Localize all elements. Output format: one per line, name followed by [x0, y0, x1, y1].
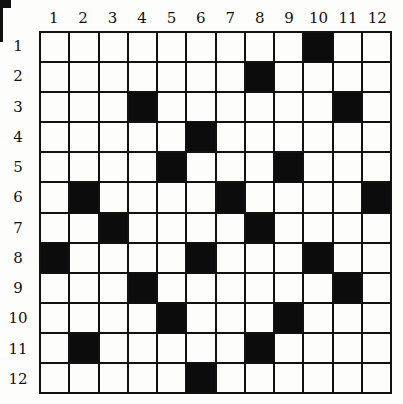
white-cell[interactable] [41, 364, 68, 392]
white-cell[interactable] [41, 63, 68, 91]
white-cell[interactable] [129, 183, 156, 211]
white-cell[interactable] [217, 244, 244, 272]
white-cell[interactable] [363, 274, 390, 302]
white-cell[interactable] [187, 214, 214, 242]
white-cell[interactable] [304, 304, 331, 332]
white-cell[interactable] [158, 33, 185, 61]
white-cell[interactable] [334, 334, 361, 362]
white-cell[interactable] [158, 63, 185, 91]
white-cell[interactable] [187, 33, 214, 61]
white-cell[interactable] [187, 334, 214, 362]
white-cell[interactable] [217, 334, 244, 362]
white-cell[interactable] [129, 153, 156, 181]
white-cell[interactable] [334, 183, 361, 211]
white-cell[interactable] [70, 33, 97, 61]
white-cell[interactable] [217, 153, 244, 181]
white-cell[interactable] [363, 364, 390, 392]
white-cell[interactable] [70, 63, 97, 91]
white-cell[interactable] [70, 153, 97, 181]
white-cell[interactable] [217, 93, 244, 121]
white-cell[interactable] [363, 304, 390, 332]
white-cell[interactable] [41, 33, 68, 61]
white-cell[interactable] [129, 63, 156, 91]
white-cell[interactable] [334, 214, 361, 242]
white-cell[interactable] [100, 304, 127, 332]
white-cell[interactable] [187, 93, 214, 121]
white-cell[interactable] [304, 123, 331, 151]
white-cell[interactable] [41, 334, 68, 362]
white-cell[interactable] [158, 214, 185, 242]
white-cell[interactable] [304, 183, 331, 211]
white-cell[interactable] [363, 63, 390, 91]
white-cell[interactable] [334, 63, 361, 91]
white-cell[interactable] [334, 304, 361, 332]
white-cell[interactable] [246, 304, 273, 332]
white-cell[interactable] [246, 33, 273, 61]
white-cell[interactable] [363, 33, 390, 61]
white-cell[interactable] [304, 153, 331, 181]
white-cell[interactable] [187, 274, 214, 302]
white-cell[interactable] [129, 214, 156, 242]
white-cell[interactable] [246, 93, 273, 121]
white-cell[interactable] [100, 334, 127, 362]
white-cell[interactable] [129, 123, 156, 151]
white-cell[interactable] [334, 123, 361, 151]
white-cell[interactable] [304, 364, 331, 392]
white-cell[interactable] [158, 364, 185, 392]
white-cell[interactable] [246, 123, 273, 151]
white-cell[interactable] [275, 183, 302, 211]
white-cell[interactable] [129, 304, 156, 332]
white-cell[interactable] [363, 244, 390, 272]
white-cell[interactable] [275, 123, 302, 151]
white-cell[interactable] [275, 93, 302, 121]
white-cell[interactable] [187, 304, 214, 332]
white-cell[interactable] [158, 93, 185, 121]
white-cell[interactable] [334, 244, 361, 272]
white-cell[interactable] [304, 334, 331, 362]
white-cell[interactable] [275, 364, 302, 392]
white-cell[interactable] [334, 364, 361, 392]
white-cell[interactable] [41, 93, 68, 121]
white-cell[interactable] [363, 214, 390, 242]
white-cell[interactable] [363, 334, 390, 362]
white-cell[interactable] [363, 153, 390, 181]
white-cell[interactable] [70, 304, 97, 332]
white-cell[interactable] [70, 214, 97, 242]
white-cell[interactable] [304, 93, 331, 121]
white-cell[interactable] [100, 364, 127, 392]
white-cell[interactable] [129, 364, 156, 392]
white-cell[interactable] [100, 183, 127, 211]
white-cell[interactable] [275, 274, 302, 302]
white-cell[interactable] [334, 33, 361, 61]
white-cell[interactable] [129, 334, 156, 362]
white-cell[interactable] [217, 33, 244, 61]
white-cell[interactable] [70, 364, 97, 392]
white-cell[interactable] [41, 304, 68, 332]
white-cell[interactable] [334, 153, 361, 181]
white-cell[interactable] [275, 63, 302, 91]
white-cell[interactable] [41, 153, 68, 181]
white-cell[interactable] [304, 214, 331, 242]
white-cell[interactable] [100, 63, 127, 91]
white-cell[interactable] [275, 244, 302, 272]
white-cell[interactable] [41, 274, 68, 302]
white-cell[interactable] [275, 334, 302, 362]
white-cell[interactable] [304, 274, 331, 302]
white-cell[interactable] [158, 334, 185, 362]
white-cell[interactable] [246, 153, 273, 181]
white-cell[interactable] [363, 123, 390, 151]
white-cell[interactable] [304, 63, 331, 91]
white-cell[interactable] [41, 123, 68, 151]
white-cell[interactable] [246, 183, 273, 211]
white-cell[interactable] [217, 214, 244, 242]
white-cell[interactable] [158, 123, 185, 151]
white-cell[interactable] [217, 274, 244, 302]
white-cell[interactable] [275, 33, 302, 61]
white-cell[interactable] [129, 244, 156, 272]
white-cell[interactable] [217, 364, 244, 392]
white-cell[interactable] [158, 244, 185, 272]
white-cell[interactable] [246, 364, 273, 392]
white-cell[interactable] [217, 123, 244, 151]
white-cell[interactable] [70, 123, 97, 151]
white-cell[interactable] [275, 214, 302, 242]
